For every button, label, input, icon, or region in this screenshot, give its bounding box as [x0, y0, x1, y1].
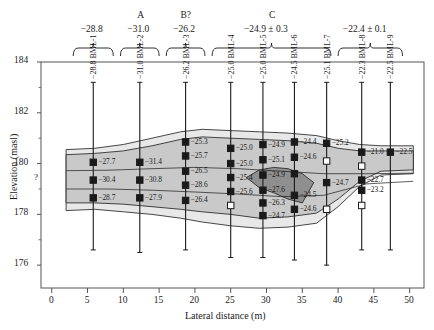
sample-marker-BML-2-2[interactable] [137, 177, 143, 183]
uncertainty-question-mark: ? [34, 172, 38, 182]
sample-marker-BML-3-3[interactable] [182, 168, 188, 174]
sample-marker-BML-9-1[interactable] [387, 149, 393, 155]
sample-marker-BML-6-2[interactable] [291, 154, 297, 160]
y-tick-label-178: 178 [14, 207, 28, 217]
sample-value-BML-4-2: −25.0 [236, 159, 253, 168]
sample-value-BML-5-2: −25.1 [268, 155, 285, 164]
sample-marker-BML-5-3[interactable] [260, 172, 266, 178]
borehole-label-BML-8: −22.3 BML-8 [358, 35, 367, 80]
sample-marker-BML-4-3[interactable] [228, 174, 234, 180]
sample-marker-BML-1-3[interactable] [90, 195, 96, 201]
sample-marker-BML-8-1[interactable] [359, 149, 365, 155]
sample-value-BML-1-1: −27.7 [98, 157, 115, 166]
sample-value-BML-8-1: −21.0 [367, 147, 384, 156]
sample-value-BML-7-3: −24.7 [332, 178, 349, 187]
sample-marker-BML-5-2[interactable] [260, 157, 266, 163]
sample-value-BML-5-6: −24.7 [268, 211, 285, 220]
sample-marker-BML-5-6[interactable] [260, 212, 266, 218]
sample-marker-BML-5-4[interactable] [260, 187, 266, 193]
sample-value-BML-1-3: −28.7 [98, 193, 115, 202]
sample-marker-BML-3-2[interactable] [182, 153, 188, 159]
sample-marker-BML-7-4[interactable] [323, 206, 329, 212]
borehole-label-BML-7: −25.1 BML-7 [323, 35, 332, 80]
x-tick-label-20: 20 [190, 295, 200, 305]
x-tick-label-5: 5 [85, 295, 90, 305]
sample-value-BML-3-1: −25.3 [191, 137, 208, 146]
borehole-label-BML-1: −28.8 BML-1 [89, 35, 98, 80]
group-value-4: −22.4 ± 0.1 [343, 24, 387, 34]
sample-value-BML-5-5: −26.3 [268, 198, 285, 207]
sample-marker-BML-6-1[interactable] [291, 139, 297, 145]
sample-value-BML-6-5: −24.6 [299, 204, 316, 213]
y-axis-title: Elevation (masl) [8, 134, 19, 200]
sample-marker-BML-2-3[interactable] [137, 195, 143, 201]
sample-value-BML-6-2: −24.6 [299, 152, 316, 161]
x-tick-label-30: 30 [261, 295, 271, 305]
sample-marker-BML-2-1[interactable] [137, 159, 143, 165]
sample-marker-BML-3-4[interactable] [182, 182, 188, 188]
sample-marker-BML-4-5[interactable] [228, 202, 234, 208]
y-tick-label-176: 176 [14, 258, 28, 268]
sample-value-BML-6-4: −24.5 [299, 190, 316, 199]
sample-marker-BML-8-4[interactable] [359, 187, 365, 193]
sample-value-BML-5-1: −24.9 [268, 140, 285, 149]
sample-value-BML-2-2: −30.8 [145, 175, 162, 184]
sample-value-BML-4-4: −25.6 [236, 187, 253, 196]
group-value-0: −28.8 [81, 24, 103, 34]
sample-value-BML-4-1: −25.0 [236, 143, 253, 152]
sample-value-BML-8-3: −22.7 [367, 175, 384, 184]
sample-marker-BML-7-2[interactable] [323, 158, 329, 164]
group-value-3: −24.9 ± 0.3 [244, 24, 288, 34]
y-tick-label-184: 184 [14, 55, 28, 65]
x-tick-label-0: 0 [49, 295, 54, 305]
x-tick-label-10: 10 [118, 295, 128, 305]
sample-marker-BML-6-5[interactable] [291, 206, 297, 212]
sample-value-BML-3-5: −26.4 [191, 195, 208, 204]
sample-value-BML-9-1: −22.5 [395, 147, 412, 156]
sample-value-BML-5-3: −24.9 [268, 170, 285, 179]
figure-canvas [0, 0, 434, 330]
sample-value-BML-3-3: −26.5 [191, 166, 208, 175]
x-tick-label-45: 45 [368, 295, 378, 305]
sample-value-BML-7-1: −25.2 [332, 138, 349, 147]
sample-marker-BML-1-1[interactable] [90, 159, 96, 165]
sample-marker-BML-3-5[interactable] [182, 197, 188, 203]
x-tick-label-35: 35 [297, 295, 307, 305]
borehole-label-BML-9: −22.5 BML-9 [386, 35, 395, 80]
sample-marker-BML-6-3[interactable] [291, 171, 297, 177]
sample-marker-BML-4-2[interactable] [228, 160, 234, 166]
sample-marker-BML-3-1[interactable] [182, 139, 188, 145]
group-name-1: A [137, 10, 144, 20]
sample-value-BML-2-3: −27.9 [145, 193, 162, 202]
sample-value-BML-3-2: −25.7 [191, 151, 208, 160]
x-tick-label-40: 40 [333, 295, 343, 305]
borehole-label-BML-2: −31.0 BML-2 [136, 35, 145, 80]
sample-marker-BML-6-4[interactable] [291, 192, 297, 198]
group-name-3: C [269, 10, 275, 20]
borehole-label-BML-3: −26.2 BML-3 [182, 35, 191, 80]
sample-marker-BML-7-1[interactable] [323, 140, 329, 146]
sample-value-BML-6-1: −24.4 [299, 137, 316, 146]
sample-value-BML-1-2: −30.4 [98, 175, 115, 184]
sample-marker-BML-4-4[interactable] [228, 188, 234, 194]
borehole-label-BML-6: −24.5 BML-6 [290, 35, 299, 80]
sample-value-BML-8-4: −23.2 [367, 185, 384, 194]
cross-section-figure: 17617818018218405101520253035404550Eleva… [0, 0, 434, 330]
sample-marker-BML-4-1[interactable] [228, 145, 234, 151]
sample-value-BML-4-3: −25.4 [236, 173, 253, 182]
sample-value-BML-3-4: −28.6 [191, 180, 208, 189]
sample-marker-BML-5-1[interactable] [260, 141, 266, 147]
group-name-2: B? [180, 10, 191, 20]
sample-marker-BML-8-3[interactable] [359, 177, 365, 183]
x-axis-title: Lateral distance (m) [185, 310, 266, 321]
y-tick-label-182: 182 [14, 106, 28, 116]
group-value-1: −31.0 [127, 24, 149, 34]
x-tick-label-15: 15 [154, 295, 164, 305]
sample-marker-BML-1-2[interactable] [90, 177, 96, 183]
sample-marker-BML-8-2[interactable] [359, 163, 365, 169]
sample-marker-BML-5-5[interactable] [260, 200, 266, 206]
borehole-label-BML-5: −25.0 BML-5 [259, 35, 268, 80]
sample-marker-BML-7-3[interactable] [323, 179, 329, 185]
sample-marker-BML-8-5[interactable] [359, 202, 365, 208]
group-value-2: −26.2 [173, 24, 195, 34]
